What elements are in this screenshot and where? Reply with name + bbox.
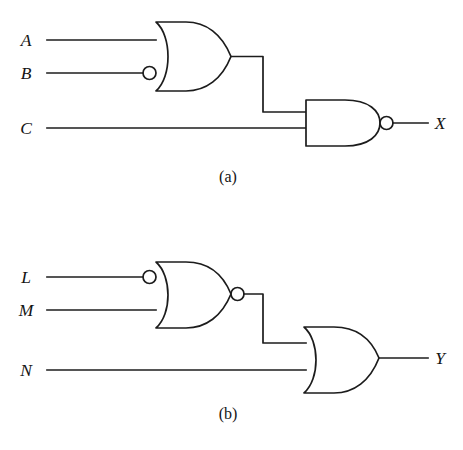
inversion-bubble-output-x [380,117,393,130]
input-label-b: B [21,63,32,83]
nor-gate-lm[interactable] [156,262,231,328]
circuit-diagram-canvas: A B C X (a) [0,0,463,450]
output-label-y: Y [435,348,447,368]
input-label-m: M [18,300,35,320]
input-label-a: A [20,30,32,50]
inversion-bubble-input-l [143,271,156,284]
wire-or-to-nand [231,57,306,113]
output-label-x: X [434,113,447,133]
caption-a: (a) [219,168,237,186]
logic-circuit-figure: A B C X (a) [0,0,463,450]
inversion-bubble-input-b [143,67,156,80]
input-label-n: N [19,360,33,380]
or-gate-ab[interactable] [156,22,231,91]
wire-nor-to-or [244,294,306,343]
input-label-c: C [20,118,32,138]
inversion-bubble-output-nor [231,288,244,301]
circuit-b: L M N Y (b) [18,262,447,423]
input-label-l: L [20,267,31,287]
nand-gate-x[interactable] [306,100,380,146]
circuit-a: A B C X (a) [20,22,447,186]
or-gate-y[interactable] [304,327,379,393]
caption-b: (b) [219,405,238,423]
